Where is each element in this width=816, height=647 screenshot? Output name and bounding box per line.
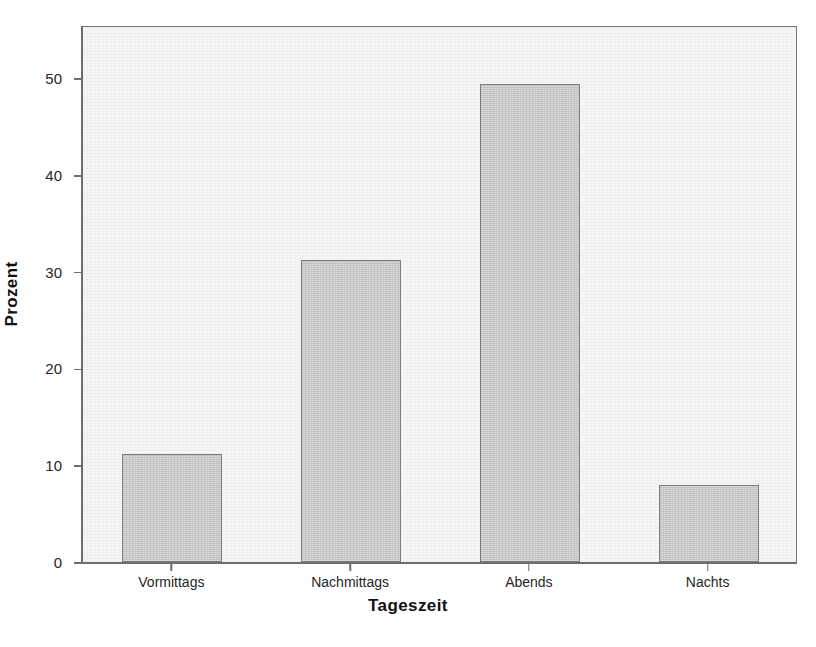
y-tick-mark [74, 175, 81, 177]
x-axis-line [81, 562, 797, 564]
x-tick-label-abends: Abends [505, 573, 552, 591]
y-tick-mark [74, 465, 81, 467]
y-tick-label: 10 [45, 456, 62, 476]
bar-vormittags [122, 454, 222, 562]
x-tick-label-nachmittags: Nachmittags [311, 573, 389, 591]
y-tick-mark [74, 369, 81, 371]
y-tick-mark [74, 562, 81, 564]
bar-nachmittags [301, 260, 401, 562]
bar-abends [480, 84, 580, 562]
y-tick-label: 20 [45, 359, 62, 379]
x-tick-label-vormittags: Vormittags [138, 573, 204, 591]
y-tick-label: 50 [45, 69, 62, 89]
y-tick-mark [74, 78, 81, 80]
y-tick-label: 0 [54, 553, 62, 573]
bars-layer [83, 27, 796, 562]
x-axis-title: Tageszeit [0, 596, 816, 616]
plot-area [82, 26, 797, 563]
x-tick-mark [349, 563, 351, 571]
bar-nachts [659, 485, 759, 562]
y-tick-label: 40 [45, 166, 62, 186]
y-tick-label: 30 [45, 263, 62, 283]
y-axis-title: Prozent [2, 261, 22, 326]
x-tick-mark [707, 563, 709, 571]
bar-chart: 01020304050 VormittagsNachmittagsAbendsN… [0, 0, 816, 647]
x-tick-mark [171, 563, 173, 571]
y-tick-mark [74, 272, 81, 274]
x-tick-mark [528, 563, 530, 571]
x-tick-label-nachts: Nachts [686, 573, 730, 591]
